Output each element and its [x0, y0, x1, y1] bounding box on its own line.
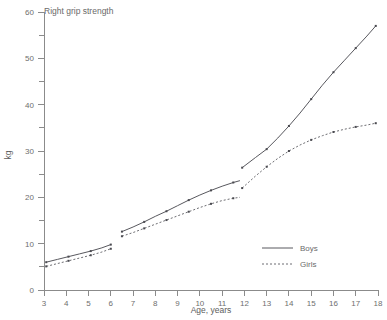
- x-tick-label: 14: [284, 299, 293, 308]
- data-point-girls: [232, 197, 234, 199]
- y-tick-label: 20: [25, 193, 34, 202]
- series-boys: [122, 181, 240, 232]
- series-boys: [46, 245, 111, 263]
- data-point-girls: [143, 227, 145, 229]
- data-point-girls: [332, 131, 334, 133]
- x-tick-label: 3: [42, 299, 47, 308]
- x-tick-label: 6: [109, 299, 114, 308]
- y-tick-label: 50: [25, 54, 34, 63]
- x-tick-label: 8: [153, 299, 158, 308]
- data-point-boys: [188, 199, 190, 201]
- data-point-boys: [310, 98, 312, 100]
- data-point-boys: [210, 189, 212, 191]
- grip-strength-line-chart: Right grip strength kg Age, years 010203…: [0, 0, 387, 320]
- data-point-girls: [90, 254, 92, 256]
- series-girls: [46, 249, 111, 267]
- chart-root: Right grip strength kg Age, years 010203…: [0, 0, 387, 320]
- y-tick-label: 60: [25, 8, 34, 17]
- data-point-boys: [110, 244, 112, 246]
- data-point-boys: [90, 250, 92, 252]
- x-tick-label: 17: [351, 299, 360, 308]
- x-tick-label: 10: [195, 299, 204, 308]
- data-point-girls: [241, 187, 243, 189]
- data-point-boys: [332, 71, 334, 73]
- data-point-girls: [375, 122, 377, 124]
- chart-title: Right grip strength: [44, 6, 114, 16]
- x-tick-label: 12: [240, 299, 249, 308]
- data-point-girls: [110, 248, 112, 250]
- y-axis-label: kg: [3, 150, 13, 159]
- data-point-boys: [241, 167, 243, 169]
- x-tick-label: 5: [86, 299, 91, 308]
- x-tick-label: 9: [175, 299, 180, 308]
- x-tick-label: 16: [329, 299, 338, 308]
- data-point-girls: [288, 150, 290, 152]
- data-point-boys: [67, 256, 69, 258]
- data-point-boys: [375, 25, 377, 27]
- legend-label-girls: Girls: [300, 260, 316, 269]
- x-tick-label: 7: [131, 299, 136, 308]
- data-point-girls: [210, 203, 212, 205]
- series-girls: [122, 197, 240, 236]
- series-girls: [242, 123, 376, 188]
- data-point-boys: [143, 221, 145, 223]
- legend-label-boys: Boys: [300, 244, 318, 253]
- y-tick-label: 0: [30, 286, 35, 295]
- y-axis-ticks: 0102030405060: [25, 8, 44, 295]
- data-point-boys: [165, 210, 167, 212]
- data-point-girls: [45, 265, 47, 267]
- x-tick-label: 13: [262, 299, 271, 308]
- data-point-boys: [121, 231, 123, 233]
- x-tick-label: 11: [218, 299, 227, 308]
- data-point-girls: [188, 211, 190, 213]
- data-point-girls: [165, 219, 167, 221]
- y-tick-label: 10: [25, 240, 34, 249]
- data-point-girls: [67, 260, 69, 262]
- data-series-layer: [46, 26, 376, 266]
- data-point-boys: [355, 47, 357, 49]
- data-point-boys: [232, 182, 234, 184]
- x-tick-label: 18: [374, 299, 383, 308]
- data-point-girls: [121, 235, 123, 237]
- chart-legend: Boys Girls: [262, 244, 318, 269]
- y-tick-label: 30: [25, 147, 34, 156]
- data-markers-layer: [45, 25, 377, 267]
- data-point-girls: [266, 166, 268, 168]
- y-tick-label: 40: [25, 101, 34, 110]
- x-tick-label: 4: [64, 299, 69, 308]
- x-tick-label: 15: [307, 299, 316, 308]
- data-point-girls: [355, 126, 357, 128]
- data-point-boys: [266, 148, 268, 150]
- data-point-girls: [310, 139, 312, 141]
- data-point-boys: [45, 261, 47, 263]
- data-point-boys: [288, 125, 290, 127]
